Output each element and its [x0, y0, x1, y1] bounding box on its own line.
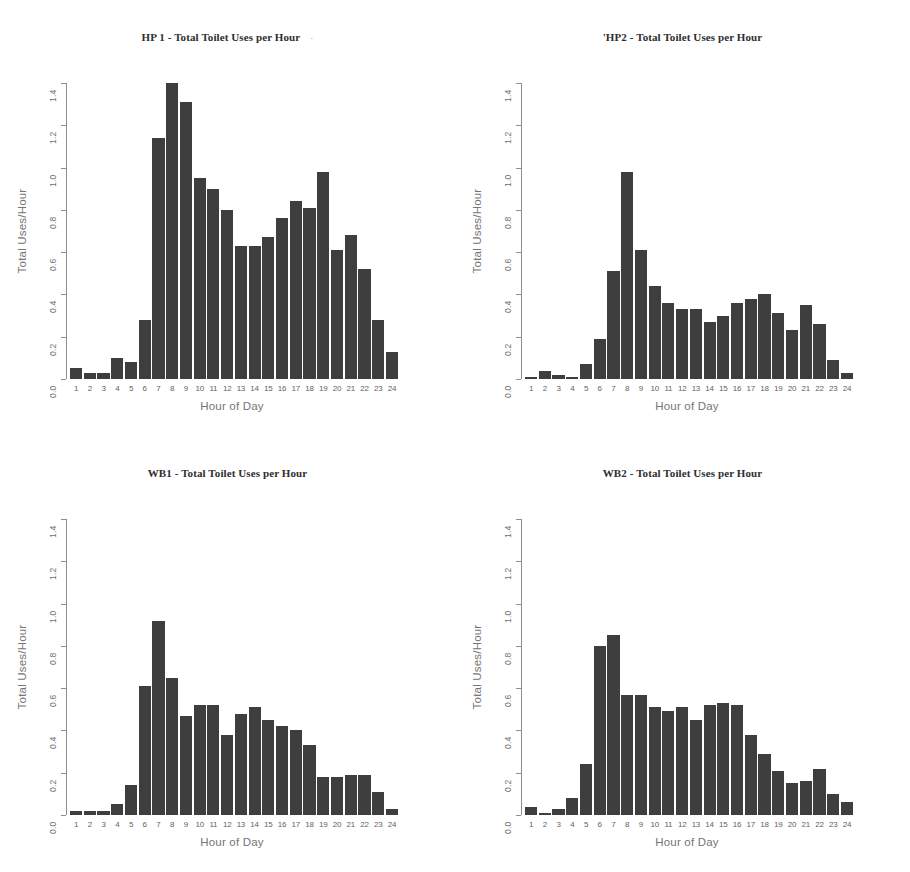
- x-axis-tick-label: 15: [262, 384, 274, 393]
- bar: [70, 811, 82, 815]
- x-axis-tick-label: 12: [221, 820, 233, 829]
- x-axis-tick-label: 19: [317, 820, 329, 829]
- bar: [635, 250, 647, 379]
- x-axis-tick-label: 1: [525, 820, 537, 829]
- y-axis-tick: [516, 337, 521, 338]
- x-axis-tick-label: 12: [676, 820, 688, 829]
- bar: [207, 705, 219, 815]
- bar: [303, 745, 315, 815]
- bar: [580, 364, 592, 379]
- x-axis-tick-label: 23: [372, 820, 384, 829]
- x-axis-tick-label: 14: [704, 820, 716, 829]
- y-axis-tick: [61, 646, 66, 647]
- y-axis-tick-label: 1.0: [503, 174, 513, 187]
- x-axis-tick-label: 5: [125, 820, 137, 829]
- y-axis-tick: [516, 210, 521, 211]
- x-axis-tick-label: 2: [84, 820, 96, 829]
- x-axis-tick-label: 4: [111, 820, 123, 829]
- x-axis-tick-label: 11: [662, 820, 674, 829]
- x-axis-tick-label: 13: [690, 384, 702, 393]
- bar: [758, 294, 770, 379]
- x-axis-tick-label: 7: [152, 384, 164, 393]
- bar: [276, 218, 288, 379]
- x-axis-tick-label: 22: [358, 384, 370, 393]
- x-axis-tick-label: 13: [235, 820, 247, 829]
- x-axis-tick-labels: 123456789101112131415161718192021222324: [522, 384, 853, 393]
- bar: [800, 305, 812, 379]
- x-axis-tick-label: 2: [539, 384, 551, 393]
- bar: [84, 373, 96, 379]
- bar: [717, 703, 729, 815]
- bar: [317, 172, 329, 379]
- bar: [97, 373, 109, 379]
- x-axis-tick-label: 24: [841, 820, 853, 829]
- x-axis-tick-label: 20: [331, 820, 343, 829]
- x-axis-tick-label: 15: [717, 820, 729, 829]
- x-axis-tick-label: 4: [111, 384, 123, 393]
- bar: [152, 621, 164, 816]
- bar: [704, 322, 716, 379]
- y-axis-tick: [61, 83, 66, 84]
- x-axis-tick-label: 14: [704, 384, 716, 393]
- bar: [386, 352, 398, 379]
- x-axis-tick-label: 16: [731, 384, 743, 393]
- x-axis-tick-label: 6: [139, 820, 151, 829]
- bar: [262, 720, 274, 815]
- y-axis-tick-label: 1.4: [48, 89, 58, 102]
- bar: [566, 798, 578, 815]
- x-axis-tick-label: 16: [731, 820, 743, 829]
- bar: [745, 735, 757, 815]
- chart-panel-4: WB2 - Total Toilet Uses per HourTotal Us…: [455, 436, 910, 872]
- y-axis-tick-label: 0.6: [48, 695, 58, 708]
- x-axis-tick-label: 11: [662, 384, 674, 393]
- bar: [358, 269, 370, 379]
- x-axis-tick-label: 20: [786, 384, 798, 393]
- y-axis-tick: [516, 815, 521, 816]
- x-axis-tick-label: 18: [758, 384, 770, 393]
- y-axis-tick-label: 0.6: [48, 259, 58, 272]
- bar: [221, 735, 233, 815]
- y-axis-tick-label: 0.6: [503, 695, 513, 708]
- bar: [827, 794, 839, 815]
- title-trailing-mark: ·: [300, 33, 313, 43]
- chart-panel-3: WB1 - Total Toilet Uses per HourTotal Us…: [0, 436, 455, 872]
- bar: [813, 769, 825, 816]
- x-axis-tick-label: 19: [317, 384, 329, 393]
- x-axis-tick-label: 9: [180, 384, 192, 393]
- x-axis-label: Hour of Day: [66, 836, 398, 848]
- y-axis-tick: [516, 646, 521, 647]
- y-axis-tick: [61, 730, 66, 731]
- y-axis-tick: [61, 379, 66, 380]
- y-axis-label-text: Total Uses/Hour: [16, 625, 28, 710]
- y-axis-tick: [61, 519, 66, 520]
- bar: [372, 320, 384, 379]
- bar: [331, 250, 343, 379]
- bar: [345, 775, 357, 815]
- x-axis-tick-label: 14: [249, 820, 261, 829]
- x-axis-tick-label: 21: [345, 384, 357, 393]
- y-axis-label: Total Uses/Hour: [14, 83, 30, 379]
- y-axis-tick-label: 1.4: [503, 525, 513, 538]
- x-axis-tick-label: 20: [331, 384, 343, 393]
- chart-title-text: 'HP2 - Total Toilet Uses per Hour: [603, 31, 763, 43]
- x-axis-tick-label: 8: [166, 384, 178, 393]
- y-axis-tick: [516, 83, 521, 84]
- bar: [539, 813, 551, 815]
- y-axis-tick-label: 0.4: [48, 737, 58, 750]
- x-axis-tick-label: 17: [745, 820, 757, 829]
- chart-title: 'HP2 - Total Toilet Uses per Hour: [455, 31, 910, 43]
- y-axis-tick: [516, 379, 521, 380]
- y-axis-tick: [516, 168, 521, 169]
- x-axis-tick-label: 7: [607, 384, 619, 393]
- figure-grid: HP 1 - Total Toilet Uses per Hour·Total …: [0, 0, 910, 872]
- bar-series: [522, 83, 853, 379]
- bar: [676, 309, 688, 379]
- bar: [649, 286, 661, 379]
- bar: [372, 792, 384, 815]
- y-axis-tick: [61, 294, 66, 295]
- bar: [111, 358, 123, 379]
- x-axis-tick-label: 23: [372, 384, 384, 393]
- bar: [345, 235, 357, 379]
- bar: [594, 646, 606, 815]
- x-axis-tick-labels: 123456789101112131415161718192021222324: [67, 820, 398, 829]
